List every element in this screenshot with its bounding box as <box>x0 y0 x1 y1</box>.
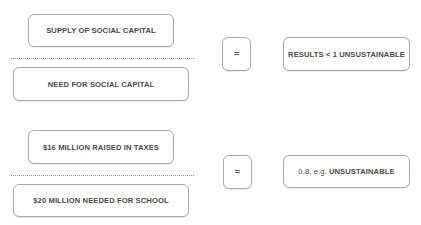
numerator-label: $16 MILLION RAISED IN TAXES <box>43 143 159 152</box>
result-label: RESULTS < 1 UNSUSTAINABLE <box>288 50 405 59</box>
equals-sign: = <box>234 49 239 59</box>
result-value: 0.8, e.g. <box>298 167 326 176</box>
denominator-box-need: NEED FOR SOCIAL CAPITAL <box>13 67 189 101</box>
numerator-label: SUPPLY OF SOCIAL CAPITAL <box>46 26 156 35</box>
result-box: RESULTS < 1 UNSUSTAINABLE <box>283 37 410 71</box>
equals-box: = <box>223 155 252 189</box>
denominator-label: NEED FOR SOCIAL CAPITAL <box>48 80 155 89</box>
numerator-box-taxes: $16 MILLION RAISED IN TAXES <box>28 130 174 164</box>
denominator-label: $20 MILLION NEEDED FOR SCHOOL <box>33 196 168 205</box>
result-verdict: UNSUSTAINABLE <box>329 167 395 176</box>
fraction-divider <box>11 58 194 59</box>
result-label: 0.8, e.g. UNSUSTAINABLE <box>298 167 394 176</box>
result-box: 0.8, e.g. UNSUSTAINABLE <box>283 155 410 188</box>
denominator-box-school: $20 MILLION NEEDED FOR SCHOOL <box>13 184 189 217</box>
equals-box: = <box>222 37 251 71</box>
fraction-divider <box>11 175 194 176</box>
numerator-box-supply: SUPPLY OF SOCIAL CAPITAL <box>28 14 174 47</box>
equals-sign: = <box>235 167 240 177</box>
